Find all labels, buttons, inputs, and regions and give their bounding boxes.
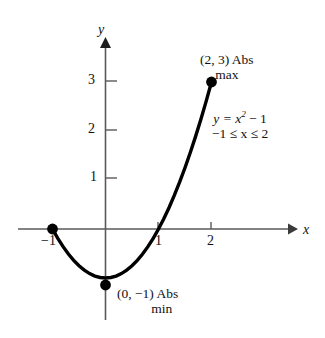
annotation-abs-max: (2, 3) Abs max [200, 52, 254, 82]
equation-suffix: − 1 [246, 111, 267, 126]
equation-prefix: y = x [213, 111, 241, 126]
y-tick-label-1: 1 [90, 169, 97, 185]
y-tick-label-3: 3 [88, 72, 95, 88]
x-tick-label-neg1: −1 [41, 233, 56, 249]
annotation-abs-min-line1: (0, −1) Abs [117, 286, 178, 301]
figure-canvas: y x 3 2 1 −1 1 2 (2, 3) Abs max y = x2 −… [0, 0, 325, 338]
x-axis-ticks [158, 222, 211, 229]
y-tick-label-2: 2 [88, 121, 95, 137]
annotation-equation: y = x2 − 1 −1 ≤ x ≤ 2 [212, 109, 268, 141]
annotation-abs-min: (0, −1) Abs min [117, 286, 178, 316]
equation-domain: −1 ≤ x ≤ 2 [212, 126, 268, 141]
annotation-abs-max-line1: (2, 3) Abs [200, 52, 254, 67]
x-axis-label: x [303, 222, 309, 238]
annotation-abs-max-line2: max [200, 67, 254, 82]
y-axis-label: y [98, 22, 104, 38]
y-axis-arrow [100, 37, 111, 48]
equation-line: y = x2 − 1 [212, 109, 268, 126]
point-abs-min [100, 280, 111, 291]
curve-path [53, 82, 212, 278]
x-tick-label-1: 1 [155, 233, 162, 249]
x-axis-arrow [288, 224, 298, 235]
x-tick-label-2: 2 [207, 233, 214, 249]
annotation-abs-min-line2: min [117, 301, 178, 316]
y-axis-ticks [106, 81, 118, 178]
